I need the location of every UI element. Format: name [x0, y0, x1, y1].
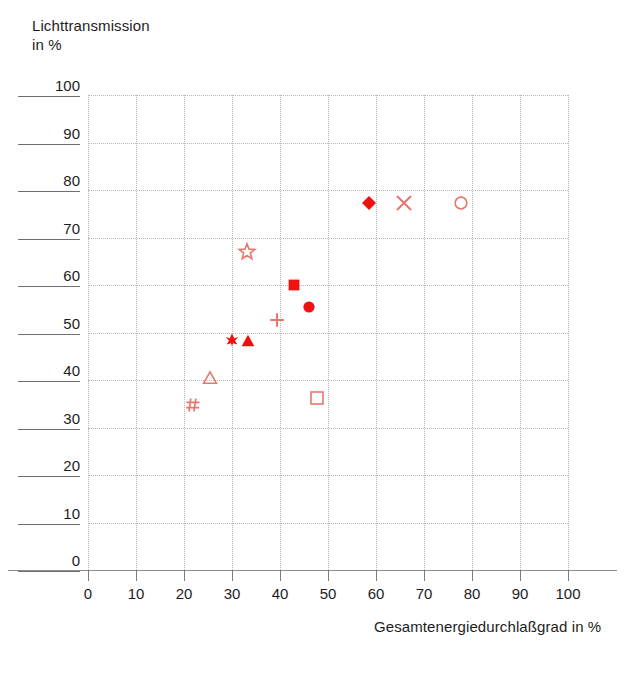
- data-point-filled-circle: [298, 296, 320, 318]
- x-tick-label: 40: [272, 585, 289, 602]
- gridline-horizontal: [88, 285, 568, 286]
- y-tick-label: 60: [18, 267, 80, 287]
- data-point-open-star: [236, 241, 258, 263]
- x-tick-mark: [280, 570, 281, 581]
- x-tick-label: 30: [224, 585, 241, 602]
- y-axis-title: Lichttransmission in %: [32, 16, 150, 54]
- gridline-horizontal: [88, 190, 568, 191]
- x-tick-mark: [376, 570, 377, 581]
- x-tick-label: 80: [464, 585, 481, 602]
- gridline-vertical: [568, 95, 569, 570]
- data-point-hash: [182, 394, 204, 416]
- y-tick-label: 0: [18, 552, 80, 572]
- x-tick-mark: [232, 570, 233, 581]
- x-tick-label: 0: [84, 585, 92, 602]
- x-tick-label: 10: [128, 585, 145, 602]
- x-tick-label: 50: [320, 585, 337, 602]
- y-tick-label: 20: [18, 457, 80, 477]
- data-point-open-triangle: [199, 367, 221, 389]
- data-point-cross-x: [393, 192, 415, 214]
- data-point-plus: [266, 309, 288, 331]
- x-tick-mark: [520, 570, 521, 581]
- x-axis-line: [8, 570, 617, 571]
- gridline-horizontal: [88, 95, 568, 96]
- gridline-horizontal: [88, 475, 568, 476]
- y-tick-label: 40: [18, 362, 80, 382]
- gridline-horizontal: [88, 523, 568, 524]
- x-tick-label: 60: [368, 585, 385, 602]
- x-tick-mark: [184, 570, 185, 581]
- y-tick-label: 10: [18, 505, 80, 525]
- data-point-open-circle: [450, 192, 472, 214]
- gridline-horizontal: [88, 428, 568, 429]
- x-tick-mark: [136, 570, 137, 581]
- scatter-chart: Lichttransmission in % Gesamtenergiedurc…: [0, 0, 637, 677]
- gridline-horizontal: [88, 143, 568, 144]
- data-point-filled-square: [283, 274, 305, 296]
- data-point-filled-triangle: [237, 330, 259, 352]
- data-point-open-square: [306, 387, 328, 409]
- data-point-filled-diamond: [358, 192, 380, 214]
- x-tick-label: 90: [512, 585, 529, 602]
- gridline-horizontal: [88, 333, 568, 334]
- y-tick-label: 100: [18, 77, 80, 97]
- y-tick-label: 90: [18, 125, 80, 145]
- x-tick-mark: [472, 570, 473, 581]
- x-tick-label: 100: [555, 585, 580, 602]
- x-tick-label: 70: [416, 585, 433, 602]
- x-axis-title: Gesamtenergiedurchlaßgrad in %: [374, 618, 601, 635]
- y-tick-label: 30: [18, 410, 80, 430]
- y-tick-label: 50: [18, 315, 80, 335]
- x-tick-mark: [568, 570, 569, 581]
- x-tick-label: 20: [176, 585, 193, 602]
- y-tick-label: 80: [18, 172, 80, 192]
- y-tick-label: 70: [18, 220, 80, 240]
- x-tick-mark: [328, 570, 329, 581]
- x-tick-mark: [424, 570, 425, 581]
- gridline-horizontal: [88, 238, 568, 239]
- gridline-horizontal: [88, 380, 568, 381]
- plot-area: [88, 95, 568, 570]
- x-tick-mark: [88, 570, 89, 581]
